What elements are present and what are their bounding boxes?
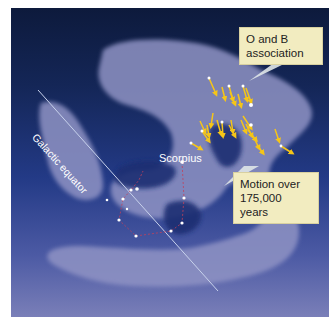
ob-association-callout: O and B association xyxy=(239,27,323,65)
diagram-panel: Galactic equator Scorpius O and B associ… xyxy=(11,8,329,317)
motion-callout: Motion over 175,000 years xyxy=(233,172,319,224)
scorpius-label: Scorpius xyxy=(159,152,202,164)
